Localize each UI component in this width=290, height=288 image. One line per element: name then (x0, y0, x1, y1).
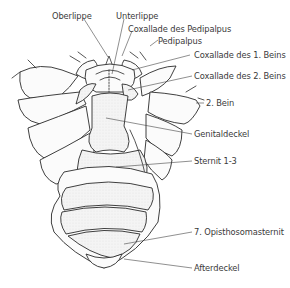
label-bein-2: 2. Bein (206, 99, 234, 107)
label-genitaldeckel: Genitaldeckel (194, 130, 249, 138)
genitaldeckel-plate (89, 93, 129, 152)
label-oberlippe: Oberlippe (52, 12, 92, 20)
leader-coxallade-1-beins (132, 55, 190, 70)
label-opisthosomasternit-7: 7. Opisthosomasternit (194, 228, 284, 236)
oberlippe-tip (106, 56, 112, 64)
label-coxallade-pedipalpus: Coxallade des Pedipalpus (128, 25, 231, 33)
leg-right-1 (140, 66, 176, 96)
leader-oberlippe (84, 19, 108, 57)
label-coxallade-1-beins: Coxallade des 1. Beins (194, 51, 286, 59)
label-unterlippe: Unterlippe (116, 12, 158, 20)
arachnid-ventral-drawing (0, 0, 290, 288)
opisthosoma (51, 166, 160, 268)
label-pedipalpus: Pedipalpus (158, 37, 202, 45)
label-sternit: Sternit 1-3 (194, 157, 237, 165)
label-afterdeckel: Afterdeckel (194, 264, 240, 272)
leader-afterdeckel (124, 259, 192, 268)
leader-pedipalpus (150, 40, 158, 46)
label-coxallade-2-beins: Coxallade des 2. Beins (194, 72, 286, 80)
diagram-canvas: Oberlippe Unterlippe Coxallade des Pedip… (0, 0, 290, 288)
